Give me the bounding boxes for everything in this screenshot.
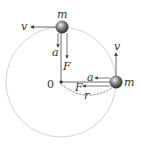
- right-mass-ball: [110, 76, 123, 89]
- top-mass-label: m: [57, 8, 67, 21]
- top-acceleration-label: a: [52, 46, 59, 59]
- center-point: [60, 81, 63, 84]
- top-force-label: F: [62, 60, 71, 73]
- right-force-label: F: [74, 81, 83, 94]
- center-label: 0: [47, 78, 54, 91]
- top-velocity-label: v: [21, 20, 28, 33]
- right-acceleration-label: a: [87, 71, 94, 84]
- right-mass-label: m: [124, 76, 134, 89]
- top-mass-ball: [56, 21, 69, 34]
- right-velocity-label: v: [114, 40, 121, 53]
- circular-motion-diagram: m v a F 0 v a F r m: [0, 0, 141, 151]
- radius-label: r: [84, 89, 90, 102]
